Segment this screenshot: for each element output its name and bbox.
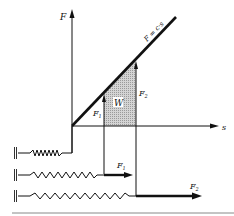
f2-force-arrowhead-icon (192, 193, 202, 200)
x-axis-label: s (222, 123, 226, 132)
f2-label: F2 (138, 89, 148, 99)
spring-f2-label: F2 (189, 182, 199, 192)
spring-stretched-s1: F1 (14, 161, 133, 181)
spring-f1-label: F1 (116, 161, 126, 171)
work-area (104, 61, 136, 126)
y-axis-arrow-icon (70, 9, 75, 18)
spring-unstretched (14, 126, 72, 159)
f1-force-arrowhead-icon (124, 172, 133, 178)
work-label: W (114, 98, 124, 108)
x-axis-arrow-icon (210, 124, 219, 129)
spring-work-diagram: W F s F = c·s F1 F2 F1 F2 (0, 0, 234, 216)
spring-stretched-s2: F2 (14, 182, 202, 202)
f1-label: F1 (92, 109, 102, 119)
y-axis-label: F (59, 12, 67, 22)
